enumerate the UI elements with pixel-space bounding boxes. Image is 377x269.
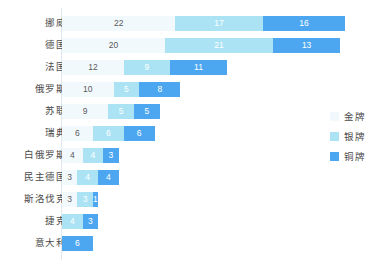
table-row: 俄罗斯1058	[0, 78, 377, 100]
table-row: 民主德国344	[0, 166, 377, 188]
bar-value-bronze: 3	[83, 214, 98, 229]
table-row: 挪威221716	[0, 12, 377, 34]
legend-item-bronze: 铜牌	[330, 146, 365, 166]
bar-segment-bronze: 16	[263, 16, 345, 31]
bar-value-gold: 20	[62, 38, 165, 53]
bar-segment-silver: 6	[93, 126, 124, 141]
table-row: 法国12911	[0, 56, 377, 78]
bar-segment-gold: 3	[62, 170, 77, 185]
bar-value-bronze: 3	[103, 148, 118, 163]
stacked-bar: 1058	[62, 82, 180, 97]
bar-value-bronze: 5	[134, 104, 160, 119]
table-row: 苏联955	[0, 100, 377, 122]
legend-label-bronze: 铜牌	[344, 147, 365, 167]
bar-segment-bronze: 6	[62, 236, 93, 251]
row-label-7: 民主德国	[24, 166, 66, 188]
stacked-bar: 443	[62, 148, 119, 163]
stacked-bar: 12911	[62, 60, 227, 75]
medal-count-chart: 挪威221716德国202113法国12911俄罗斯1058苏联955瑞典666…	[0, 0, 377, 269]
row-label-6: 白俄罗斯	[24, 144, 66, 166]
bar-segment-bronze: 1	[93, 192, 98, 207]
bar-segment-bronze: 3	[103, 148, 118, 163]
bar-segment-gold: 9	[62, 104, 108, 119]
legend-label-gold: 金牌	[344, 107, 365, 127]
bar-segment-gold: 10	[62, 82, 114, 97]
bar-segment-gold: 6	[62, 126, 93, 141]
bar-value-silver: 21	[165, 38, 273, 53]
bar-value-bronze: 13	[273, 38, 340, 53]
legend-swatch-silver-icon	[330, 132, 339, 141]
bar-segment-gold: 4	[62, 148, 83, 163]
bar-segment-silver: 4	[77, 170, 98, 185]
bar-value-silver: 5	[108, 104, 134, 119]
stacked-bar: 221716	[62, 16, 345, 31]
bar-value-gold: 6	[62, 126, 93, 141]
bar-value-silver: 9	[124, 60, 170, 75]
bar-value-gold: 9	[62, 104, 108, 119]
bar-value-gold: 12	[62, 60, 124, 75]
legend-swatch-bronze-icon	[330, 152, 339, 161]
stacked-bar: 344	[62, 170, 119, 185]
legend-item-gold: 金牌	[330, 106, 365, 126]
bar-segment-silver: 17	[175, 16, 263, 31]
legend-label-silver: 银牌	[344, 127, 365, 147]
bar-segment-bronze: 4	[98, 170, 119, 185]
stacked-bar: 6	[62, 236, 93, 251]
bar-segment-silver: 4	[83, 148, 104, 163]
bar-value-silver: 4	[77, 170, 98, 185]
stacked-bar: 202113	[62, 38, 340, 53]
stacked-bar: 43	[62, 214, 98, 229]
bar-value-bronze: 8	[139, 82, 180, 97]
bar-value-silver: 4	[62, 214, 83, 229]
bar-value-silver: 5	[114, 82, 140, 97]
stacked-bar: 666	[62, 126, 155, 141]
bar-segment-bronze: 3	[83, 214, 98, 229]
bar-segment-bronze: 11	[170, 60, 227, 75]
bar-value-gold: 22	[62, 16, 175, 31]
legend-item-silver: 银牌	[330, 126, 365, 146]
bar-segment-silver: 3	[77, 192, 92, 207]
bar-segment-silver: 4	[62, 214, 83, 229]
table-row: 白俄罗斯443	[0, 144, 377, 166]
table-row: 捷克43	[0, 210, 377, 232]
bar-segment-gold: 12	[62, 60, 124, 75]
bar-segment-silver: 5	[114, 82, 140, 97]
bar-value-gold: 10	[62, 82, 114, 97]
bar-segment-gold: 22	[62, 16, 175, 31]
row-label-8: 斯洛伐克	[24, 188, 66, 210]
bar-value-silver: 17	[175, 16, 263, 31]
bar-value-bronze: 6	[62, 236, 93, 251]
bar-value-bronze: 1	[93, 192, 98, 207]
table-row: 德国202113	[0, 34, 377, 56]
bar-value-silver: 6	[93, 126, 124, 141]
bar-value-silver: 3	[77, 192, 92, 207]
bar-segment-bronze: 8	[139, 82, 180, 97]
bar-value-gold: 3	[62, 192, 77, 207]
chart-legend: 金牌 银牌 铜牌	[330, 106, 365, 166]
bar-value-bronze: 11	[170, 60, 227, 75]
bar-segment-silver: 21	[165, 38, 273, 53]
bar-segment-bronze: 6	[124, 126, 155, 141]
table-row: 意大利6	[0, 232, 377, 254]
bar-value-bronze: 6	[124, 126, 155, 141]
bar-segment-silver: 9	[124, 60, 170, 75]
table-row: 斯洛伐克331	[0, 188, 377, 210]
stacked-bar: 955	[62, 104, 160, 119]
bar-segment-bronze: 13	[273, 38, 340, 53]
bar-value-gold: 4	[62, 148, 83, 163]
bar-value-bronze: 16	[263, 16, 345, 31]
bar-value-silver: 4	[83, 148, 104, 163]
bar-value-bronze: 4	[98, 170, 119, 185]
bar-segment-gold: 20	[62, 38, 165, 53]
legend-swatch-gold-icon	[330, 112, 339, 121]
table-row: 瑞典666	[0, 122, 377, 144]
bar-segment-gold: 3	[62, 192, 77, 207]
bar-segment-bronze: 5	[134, 104, 160, 119]
bar-value-gold: 3	[62, 170, 77, 185]
stacked-bar: 331	[62, 192, 98, 207]
bar-segment-silver: 5	[108, 104, 134, 119]
plot-area: 挪威221716德国202113法国12911俄罗斯1058苏联955瑞典666…	[0, 0, 377, 269]
